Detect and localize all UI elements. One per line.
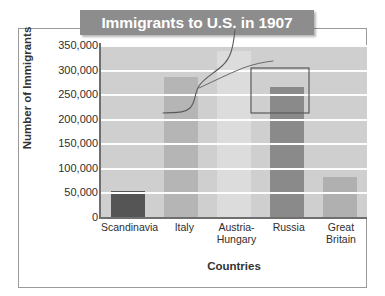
chart-title: Immigrants to U.S. in 1907 (101, 14, 292, 32)
y-tick-label: 300,000 (28, 64, 98, 76)
gridline (101, 192, 367, 194)
gridline (101, 119, 367, 121)
y-tick-label: 100,000 (28, 162, 98, 174)
plot-area (101, 45, 367, 217)
bar[interactable] (270, 87, 304, 217)
bar[interactable] (164, 77, 198, 217)
y-tick-label: 150,000 (28, 137, 98, 149)
y-tick-label: 250,000 (28, 88, 98, 100)
bar[interactable] (323, 177, 357, 217)
gridline (101, 143, 367, 145)
chart-title-banner: Immigrants to U.S. in 1907 (80, 10, 314, 35)
bar[interactable] (111, 191, 145, 217)
y-tick-label: 350,000 (28, 39, 98, 51)
x-axis-tick-labels: ScandinaviaItalyAustria- HungaryRussiaGr… (101, 221, 367, 245)
x-tick-label: Scandinavia (101, 221, 158, 245)
x-tick-label: Russia (263, 221, 315, 245)
y-axis-line (99, 43, 101, 219)
gridline (101, 168, 367, 170)
y-tick-label: 0 (28, 211, 98, 223)
x-axis-line (99, 217, 367, 219)
y-axis-tick-labels: 050,000100,000150,000200,000250,000300,0… (28, 45, 98, 217)
gridline (101, 70, 367, 72)
x-tick-label: Italy (158, 221, 210, 245)
gridline (101, 94, 367, 96)
gridline (101, 45, 367, 47)
y-tick-label: 50,000 (28, 186, 98, 198)
x-tick-label: Austria- Hungary (210, 221, 262, 245)
x-tick-label: Great Britain (315, 221, 367, 245)
y-tick-label: 200,000 (28, 113, 98, 125)
x-axis-title: Countries (101, 260, 367, 272)
